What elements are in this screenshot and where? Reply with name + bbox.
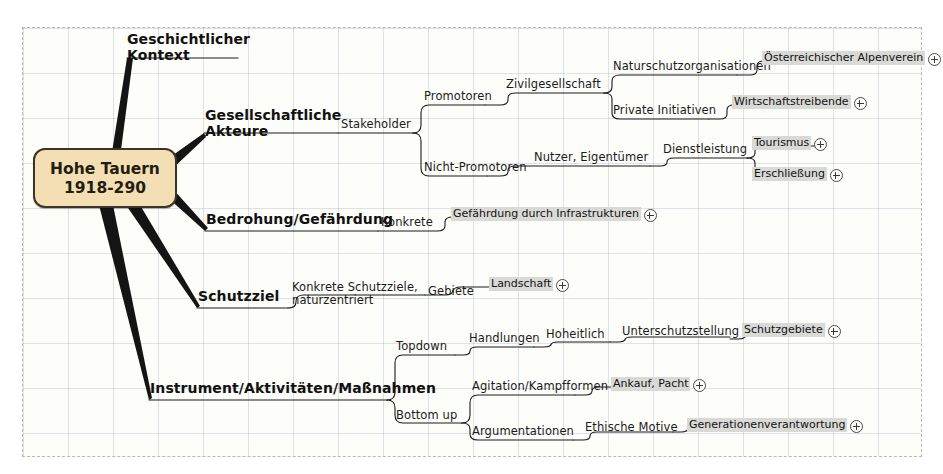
node-bottom-up[interactable]: Bottom up [396,409,457,422]
node-konkrete[interactable]: Konkrete [381,216,433,229]
node-topdown[interactable]: Topdown [396,340,447,353]
leaf-label: Ankauf, Pacht [611,377,690,391]
root-label-line1: Hohe Tauern [50,160,160,178]
branch-instrument-aktivitaeten-massnahmen[interactable]: Instrument/Aktivitäten/Maßnahmen [150,381,436,397]
node-promotoren[interactable]: Promotoren [424,90,492,103]
node-hoheitlich[interactable]: Hoheitlich [546,328,605,341]
plus-circle-icon[interactable] [928,53,941,66]
branch-geschichtlicher-kontext[interactable]: Geschichtlicher Kontext [127,32,247,63]
leaf-label: Wirtschaftstreibende [732,95,851,109]
plus-circle-icon[interactable] [644,209,657,222]
node-private-initiativen[interactable]: Private Initiativen [613,104,716,117]
node-konkrete-schutzziele[interactable]: Konkrete Schutzziele, naturzentriert [292,281,422,307]
node-argumentationen[interactable]: Argumentationen [472,425,574,438]
root-node[interactable]: Hohe Tauern 1918-290 [33,148,177,208]
plus-circle-icon[interactable] [828,325,841,338]
leaf-landschaft[interactable]: Landschaft [489,277,569,291]
leaf-tourismus[interactable]: Tourismus [752,136,827,150]
root-label-line2: 1918-290 [64,179,146,197]
node-unterschutzstellung[interactable]: Unterschutzstellung [622,325,739,338]
leaf-label: Erschließung [752,167,827,181]
leaf-oesterreichischer-alpenverein[interactable]: Österreichischer Alpenverein [762,51,941,65]
node-nicht-promotoren[interactable]: Nicht-Promotoren [424,161,527,174]
node-agitation-kampfformen[interactable]: Agitation/Kampfformen [472,380,608,393]
plus-circle-icon[interactable] [814,138,827,151]
leaf-gefaehrdung-durch-infrastrukturen[interactable]: Gefährdung durch Infrastrukturen [451,207,657,221]
plus-circle-icon[interactable] [830,169,843,182]
node-handlungen[interactable]: Handlungen [469,332,540,345]
plus-circle-icon[interactable] [693,379,706,392]
plus-circle-icon[interactable] [850,420,863,433]
leaf-wirtschaftstreibende[interactable]: Wirtschaftstreibende [732,95,867,109]
leaf-erschliessung[interactable]: Erschließung [752,167,843,181]
plus-circle-icon[interactable] [854,97,867,110]
leaf-label: Gefährdung durch Infrastrukturen [451,207,641,221]
node-stakeholder[interactable]: Stakeholder [341,118,411,131]
node-zivilgesellschaft[interactable]: Zivilgesellschaft [506,78,601,91]
branch-bedrohung-gefaehrdung[interactable]: Bedrohung/Gefährdung [206,212,393,228]
node-naturschutzorganisationen[interactable]: Naturschutzorganisationen [613,60,771,73]
leaf-schutzgebiete[interactable]: Schutzgebiete [742,323,841,337]
leaf-label: Tourismus [752,136,811,150]
leaf-label: Schutzgebiete [742,323,825,337]
plus-circle-icon[interactable] [556,279,569,292]
leaf-label: Landschaft [489,277,553,291]
leaf-label: Österreichischer Alpenverein [762,51,925,65]
node-gebiete[interactable]: Gebiete [428,285,474,298]
node-dienstleistung[interactable]: Dienstleistung [663,143,747,156]
node-ethische-motive[interactable]: Ethische Motive [585,421,678,434]
leaf-ankauf-pacht[interactable]: Ankauf, Pacht [611,377,706,391]
leaf-generationenverantwortung[interactable]: Generationenverantwortung [687,418,863,432]
branch-gesellschaftliche-akteure[interactable]: Gesellschaftliche Akteure [205,108,325,139]
leaf-label: Generationenverantwortung [687,418,847,432]
mindmap-stage: Hohe Tauern 1918-290 Geschichtlicher Kon… [0,0,943,474]
branch-schutzziel[interactable]: Schutzziel [198,289,279,305]
node-nutzer-eigentuemer[interactable]: Nutzer, Eigentümer [534,151,648,164]
